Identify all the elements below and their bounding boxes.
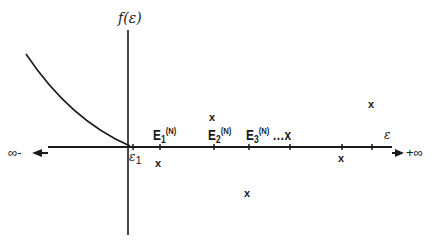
eigenvalue-label-1: E1(N) xyxy=(153,127,176,145)
pole-mark: x xyxy=(155,158,161,169)
pole-mark: x xyxy=(338,153,344,164)
pole-mark: x xyxy=(244,188,250,199)
minus-infinity-label: ∞- xyxy=(8,146,22,159)
f-curve xyxy=(26,54,130,146)
y-axis-label: f(ε) xyxy=(118,11,142,25)
plus-infinity-label: +∞ xyxy=(406,146,423,159)
origin-label: ε1 xyxy=(129,151,142,166)
eigenvalue-label-2: E2(N) xyxy=(208,127,231,145)
left-arrow-icon xyxy=(32,149,48,157)
origin-subscript: 1 xyxy=(135,154,141,166)
pole-mark: x xyxy=(368,99,374,110)
eigenvalue-label-3: E3(N) …x xyxy=(246,127,291,145)
x-axis-label: ε xyxy=(384,129,390,141)
pole-mark: x xyxy=(209,112,215,123)
right-arrow-icon xyxy=(392,149,404,157)
